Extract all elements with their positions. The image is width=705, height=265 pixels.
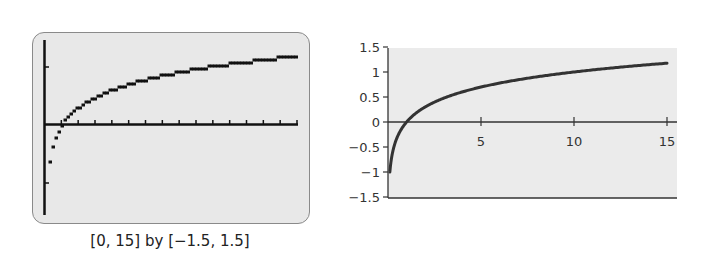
calc-curve-pixel — [58, 131, 62, 134]
calc-curve-pixel — [49, 161, 53, 164]
x-tick-label: 15 — [659, 134, 676, 149]
calc-curve-pixel — [154, 77, 158, 80]
calc-curve-pixel — [295, 56, 299, 59]
calc-curve-pixel — [133, 83, 137, 86]
calc-curve-pixel — [112, 89, 116, 92]
calc-curve-pixel — [250, 62, 254, 65]
calc-curve-pixel — [280, 56, 284, 59]
calc-curve-pixel — [148, 77, 152, 80]
calc-curve-pixel — [259, 59, 263, 62]
calc-curve-pixel — [106, 92, 110, 95]
calc-curve-pixel — [286, 56, 290, 59]
calc-curve-pixel — [223, 65, 227, 68]
calc-curve-pixel — [256, 59, 260, 62]
calc-curve-pixel — [214, 65, 218, 68]
calc-curve-pixel — [70, 113, 74, 116]
calc-curve-pixel — [241, 62, 245, 65]
calc-curve-pixel — [61, 125, 65, 128]
calc-curve-pixel — [190, 68, 194, 71]
smooth-plot: 1.510.50−0.5−1−1.5 51015 — [348, 40, 677, 205]
calc-curve-pixel — [142, 80, 146, 83]
calc-curve-pixel — [52, 146, 56, 149]
calc-curve-pixel — [136, 80, 140, 83]
calc-curve-pixel — [184, 71, 188, 74]
calc-curve-pixel — [145, 80, 149, 83]
calc-curve-pixel — [172, 74, 176, 77]
calc-curve-pixel — [94, 98, 98, 101]
calc-curve-pixel — [151, 77, 155, 80]
calc-curve-pixel — [82, 104, 86, 107]
calc-curve-pixel — [283, 56, 287, 59]
calc-curve-pixel — [202, 68, 206, 71]
calc-curve-pixel — [115, 89, 119, 92]
calc-curve-pixel — [211, 65, 215, 68]
calc-curve-pixel — [73, 110, 77, 113]
calc-curve-pixel — [196, 68, 200, 71]
calc-curve-pixel — [292, 56, 296, 59]
calc-curve-pixel — [274, 59, 278, 62]
calc-curve-pixel — [169, 74, 173, 77]
calc-curve-pixel — [277, 56, 281, 59]
calc-curve-pixel — [178, 71, 182, 74]
calc-curve-pixel — [157, 77, 161, 80]
y-tick-label: 1 — [372, 65, 380, 80]
calc-curve-pixel — [166, 74, 170, 77]
y-tick-label: 1.5 — [359, 40, 380, 55]
plot-area — [388, 48, 677, 198]
calc-curve-pixel — [160, 74, 164, 77]
calc-curve-pixel — [235, 62, 239, 65]
calc-curve-pixel — [103, 92, 107, 95]
calc-curve-pixel — [163, 74, 167, 77]
calc-curve-pixel — [289, 56, 293, 59]
calc-curve-pixel — [181, 71, 185, 74]
calc-curve-pixel — [238, 62, 242, 65]
x-tick-label: 10 — [566, 134, 583, 149]
calc-curve-pixel — [55, 137, 59, 140]
calc-curve-pixel — [229, 62, 233, 65]
calc-curve-pixel — [124, 86, 128, 89]
calc-curve-pixel — [100, 95, 104, 98]
calc-curve-pixel — [217, 65, 221, 68]
calculator-graph — [44, 40, 298, 215]
calc-curve-pixel — [226, 65, 230, 68]
calc-curve-pixel — [97, 95, 101, 98]
calc-curve-pixel — [262, 59, 266, 62]
calc-curve-pixel — [175, 71, 179, 74]
y-tick-label: −1 — [361, 165, 380, 180]
y-tick-label: 0.5 — [359, 90, 380, 105]
calc-curve-pixel — [127, 83, 131, 86]
calc-curve-pixel — [199, 68, 203, 71]
calc-curve-pixel — [265, 59, 269, 62]
calc-curve-pixel — [130, 83, 134, 86]
calc-curve-pixel — [67, 116, 71, 119]
y-tick-label: −0.5 — [348, 140, 380, 155]
calc-curve-pixel — [64, 119, 68, 122]
calc-curve-pixel — [247, 62, 251, 65]
calc-curve-pixel — [76, 107, 80, 110]
calc-curve-pixel — [244, 62, 248, 65]
calc-curve-pixel — [193, 68, 197, 71]
calc-curve-pixel — [88, 101, 92, 104]
calc-curve-pixel — [109, 89, 113, 92]
calc-curve-pixel — [91, 98, 95, 101]
calc-curve-pixel — [121, 86, 125, 89]
calc-curve-pixel — [268, 59, 272, 62]
calc-curve-pixel — [85, 101, 89, 104]
calc-pixel-curve — [49, 56, 299, 164]
y-tick-label: 0 — [372, 115, 380, 130]
calc-curve-pixel — [232, 62, 236, 65]
calc-curve-pixel — [118, 86, 122, 89]
y-tick-label: −1.5 — [348, 190, 380, 205]
x-tick-label: 5 — [477, 134, 485, 149]
calc-curve-pixel — [208, 65, 212, 68]
calc-curve-pixel — [79, 107, 83, 110]
plot-y-ticks: 1.510.50−0.5−1−1.5 — [348, 40, 388, 205]
charts-svg: 1.510.50−0.5−1−1.5 51015 — [0, 0, 705, 265]
calc-curve-pixel — [271, 59, 275, 62]
calc-curve-pixel — [253, 59, 257, 62]
calc-curve-pixel — [205, 68, 209, 71]
calc-curve-pixel — [187, 71, 191, 74]
calc-curve-pixel — [220, 65, 224, 68]
calc-curve-pixel — [139, 80, 143, 83]
